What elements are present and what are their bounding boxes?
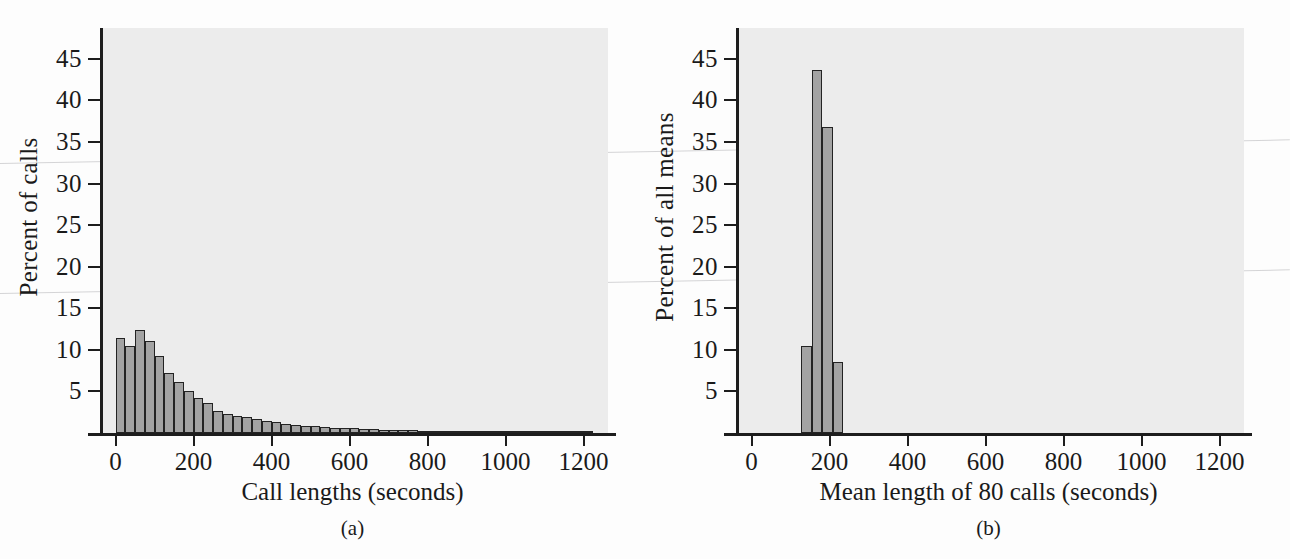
x-tick-label-b-800: 800 <box>1045 448 1083 476</box>
histogram-bar <box>272 422 282 433</box>
histogram-bar <box>311 426 321 433</box>
x-tick-label-a-0: 0 <box>109 448 122 476</box>
histogram-bar <box>125 346 135 433</box>
histogram-bar <box>467 431 477 433</box>
y-tick-b-15 <box>724 307 737 309</box>
x-tick-label-a-400: 400 <box>253 448 291 476</box>
y-tick-a-20 <box>88 266 101 268</box>
histogram-bar <box>486 431 496 433</box>
y-tick-label-b-10: 10 <box>678 337 718 362</box>
histogram-bar <box>281 424 291 433</box>
y-axis-label-b: Percent of all means <box>648 0 682 433</box>
x-axis-label-b: Mean length of 80 calls (seconds) <box>736 478 1241 506</box>
histogram-bar <box>330 428 340 433</box>
histogram-bar <box>203 403 213 433</box>
x-tick-b-1000 <box>1141 433 1143 446</box>
histogram-bar <box>291 425 301 433</box>
y-tick-a-45 <box>88 58 101 60</box>
y-axis-label-a: Percent of calls <box>12 0 46 433</box>
histogram-bar <box>301 426 311 433</box>
histogram-bar <box>223 414 233 433</box>
y-tick-label-a-25: 25 <box>42 212 82 237</box>
y-tick-label-a-30: 30 <box>42 171 82 196</box>
histogram-bar <box>525 431 535 433</box>
y-tick-b-40 <box>724 99 737 101</box>
histogram-bar <box>584 431 594 433</box>
x-tick-b-1200 <box>1219 433 1221 446</box>
y-tick-label-b-45: 45 <box>678 46 718 71</box>
histogram-bar <box>213 411 223 433</box>
y-tick-label-b-40: 40 <box>678 87 718 112</box>
x-tick-a-200 <box>193 433 195 446</box>
y-tick-b-35 <box>724 141 737 143</box>
y-tick-b-25 <box>724 224 737 226</box>
histogram-bar <box>145 341 155 433</box>
histogram-bar <box>515 431 525 433</box>
x-tick-a-800 <box>427 433 429 446</box>
histogram-bar <box>184 391 194 433</box>
y-tick-b-45 <box>724 58 737 60</box>
histogram-bar <box>801 346 812 433</box>
y-tick-label-a-10: 10 <box>42 337 82 362</box>
x-tick-a-600 <box>349 433 351 446</box>
y-tick-label-b-25: 25 <box>678 212 718 237</box>
x-tick-b-800 <box>1063 433 1065 446</box>
y-axis-label-a-text: Percent of calls <box>15 137 43 296</box>
x-tick-b-600 <box>985 433 987 446</box>
histogram-bar <box>476 431 486 433</box>
x-tick-label-a-200: 200 <box>175 448 213 476</box>
y-tick-a-30 <box>88 183 101 185</box>
histogram-bars-b <box>736 28 1241 433</box>
y-tick-a-5 <box>88 390 101 392</box>
y-tick-a-40 <box>88 99 101 101</box>
histogram-bar <box>437 431 447 433</box>
y-tick-b-10 <box>724 349 737 351</box>
y-tick-label-b-20: 20 <box>678 254 718 279</box>
x-tick-label-b-1000: 1000 <box>1117 448 1167 476</box>
histogram-bar <box>822 127 833 433</box>
histogram-bar <box>545 431 555 433</box>
x-tick-b-400 <box>907 433 909 446</box>
x-tick-label-b-0: 0 <box>745 448 758 476</box>
x-axis-label-a: Call lengths (seconds) <box>100 478 605 506</box>
histogram-bar <box>350 428 360 433</box>
histogram-bar <box>457 431 467 433</box>
y-tick-b-30 <box>724 183 737 185</box>
histogram-bar <box>155 356 165 433</box>
histogram-bar <box>379 430 389 433</box>
histogram-bar <box>389 430 399 433</box>
x-tick-label-a-800: 800 <box>409 448 447 476</box>
y-tick-a-10 <box>88 349 101 351</box>
y-tick-label-b-35: 35 <box>678 129 718 154</box>
x-tick-label-a-600: 600 <box>331 448 369 476</box>
x-tick-b-0 <box>751 433 753 446</box>
x-tick-label-b-200: 200 <box>811 448 849 476</box>
histogram-bar <box>447 431 457 433</box>
histogram-bar <box>135 330 145 433</box>
x-tick-a-400 <box>271 433 273 446</box>
x-tick-b-200 <box>829 433 831 446</box>
x-axis-b <box>724 433 1252 436</box>
y-tick-label-a-35: 35 <box>42 129 82 154</box>
y-tick-b-5 <box>724 390 737 392</box>
histogram-bars-a <box>100 28 605 433</box>
x-tick-label-a-1200: 1200 <box>559 448 609 476</box>
caption-a: (a) <box>100 516 605 541</box>
histogram-bar <box>506 431 516 433</box>
y-tick-label-a-20: 20 <box>42 254 82 279</box>
histogram-bar <box>369 429 379 433</box>
histogram-bar <box>554 431 564 433</box>
x-tick-a-1200 <box>583 433 585 446</box>
x-tick-label-a-1000: 1000 <box>481 448 531 476</box>
y-tick-label-a-45: 45 <box>42 46 82 71</box>
histogram-bar <box>242 417 252 433</box>
histogram-bar <box>428 431 438 433</box>
y-tick-a-25 <box>88 224 101 226</box>
y-tick-b-20 <box>724 266 737 268</box>
histogram-bar <box>194 398 204 433</box>
panel-a: Percent of calls Call lengths (seconds) … <box>0 0 636 559</box>
x-axis-a <box>88 433 616 436</box>
x-tick-label-b-400: 400 <box>889 448 927 476</box>
histogram-bar <box>535 431 545 433</box>
